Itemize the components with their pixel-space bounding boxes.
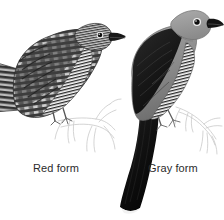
caption-gray-form: Gray form [148, 163, 198, 174]
gray-form-eye-highlight [195, 20, 197, 22]
cuckoo-illustration-artwork [0, 0, 224, 220]
caption-red-form: Red form [33, 163, 79, 174]
red-form-pupil [98, 33, 103, 38]
gray-form-pupil [194, 19, 199, 24]
illustration-figure: Red form Gray form [0, 0, 224, 220]
red-form-eye-highlight [99, 34, 100, 35]
